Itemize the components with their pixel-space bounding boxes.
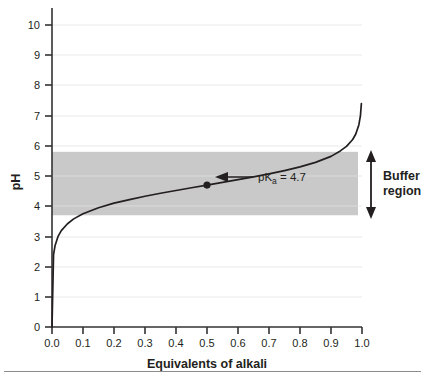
x-tick-label: 1.0 — [354, 337, 369, 349]
x-tick-label: 0.9 — [323, 337, 338, 349]
y-tick-label: 9 — [34, 49, 40, 61]
titration-curve-line — [52, 104, 361, 327]
x-tick-label: 0.0 — [44, 337, 59, 349]
y-axis-title: pH — [9, 174, 23, 191]
titration-curve-figure: 10 9 8 7 6 5 4 3 2 1 0 0.0 0.1 0.2 0.3 0… — [0, 0, 425, 379]
pka-data-point — [203, 181, 210, 188]
y-tick-label: 7 — [34, 110, 40, 122]
y-tick-label: 6 — [34, 140, 40, 152]
x-tick-label: 0.8 — [292, 337, 307, 349]
y-tick-label: 8 — [34, 79, 40, 91]
buffer-region-label-line1: Buffer — [383, 169, 420, 183]
x-tick-label: 0.7 — [261, 337, 276, 349]
x-tick-labels: 0.0 0.1 0.2 0.3 0.4 0.5 0.6 0.7 0.8 0.9 … — [44, 337, 369, 349]
y-tick-label: 0 — [34, 321, 40, 333]
y-tick-label: 2 — [34, 261, 40, 273]
y-tick-label: 10 — [28, 19, 40, 31]
x-axis-ticks — [52, 327, 362, 334]
chart-canvas: 10 9 8 7 6 5 4 3 2 1 0 0.0 0.1 0.2 0.3 0… — [0, 0, 425, 379]
buffer-region-label-line2: region — [383, 184, 421, 198]
buffer-region-arrow — [366, 150, 376, 219]
x-tick-label: 0.3 — [137, 337, 152, 349]
x-tick-label: 0.2 — [106, 337, 121, 349]
y-tick-labels: 10 9 8 7 6 5 4 3 2 1 0 — [28, 19, 40, 333]
x-axis-title: Equivalents of alkali — [147, 357, 267, 371]
x-tick-label: 0.1 — [75, 337, 90, 349]
y-tick-label: 1 — [34, 291, 40, 303]
x-tick-label: 0.6 — [230, 337, 245, 349]
x-tick-label: 0.4 — [168, 337, 183, 349]
x-tick-label: 0.5 — [199, 337, 214, 349]
y-tick-label: 4 — [34, 200, 40, 212]
y-tick-label: 3 — [34, 231, 40, 243]
y-axis-ticks — [45, 25, 52, 327]
footer-rule — [4, 371, 421, 372]
y-tick-label: 5 — [34, 170, 40, 182]
